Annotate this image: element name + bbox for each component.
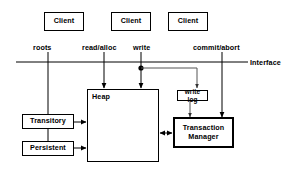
persistent-box[interactable]: Persistent	[22, 141, 74, 156]
client-box-3[interactable]: Client	[168, 12, 208, 31]
interface-label-commit-abort: commit/abort	[193, 43, 240, 52]
transaction-manager-label-line2: Manager	[183, 133, 224, 141]
interface-label-write: write	[133, 43, 150, 52]
transaction-manager-box[interactable]: Transaction Manager	[173, 117, 234, 148]
heap-label: Heap	[92, 93, 110, 101]
transitory-box[interactable]: Transitory	[22, 114, 74, 129]
persistent-label: Persistent	[30, 144, 66, 152]
client-box-1[interactable]: Client	[44, 12, 84, 31]
interface-label-roots: roots	[33, 43, 51, 52]
interface-label-read-alloc: read/alloc	[82, 43, 117, 52]
interface-line-label: Interface	[250, 58, 281, 67]
client-label-1: Client	[54, 17, 75, 25]
heap-box[interactable]: Heap	[87, 89, 159, 162]
transitory-label: Transitory	[30, 117, 66, 125]
client-label-2: Client	[121, 17, 142, 25]
write-log-box[interactable]: write log	[177, 90, 208, 101]
connector-write	[138, 52, 143, 88]
diagram-canvas: Client Client Client roots read/alloc wr…	[0, 0, 290, 175]
client-box-2[interactable]: Client	[111, 12, 151, 31]
write-log-label: write log	[180, 88, 205, 103]
connector-write-to-log	[141, 68, 197, 88]
client-label-3: Client	[178, 17, 199, 25]
